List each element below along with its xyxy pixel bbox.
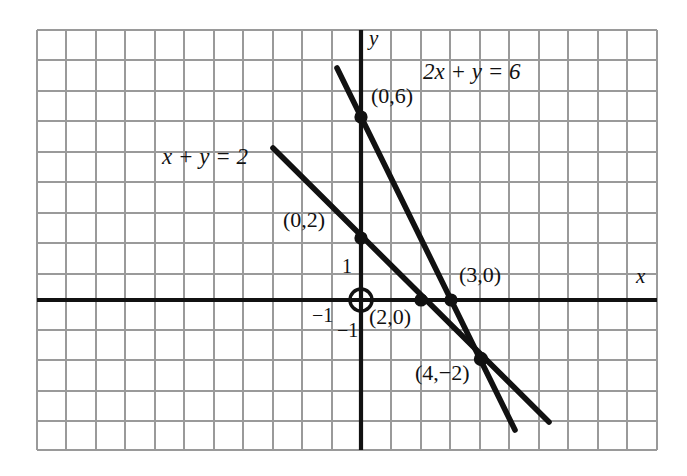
point-label-0-6: (0,6) [371,85,413,107]
x-axis-label: x [636,266,645,287]
line-1-equation-text: 2x + y = 6 [423,59,520,84]
coordinate-plane [0,0,687,476]
y-tick-label-neg1: −1 [337,320,358,340]
y-tick-label-1: 1 [342,256,352,276]
point-marker-0-2 [354,231,367,244]
line-2-equation-text: x + y = 2 [162,144,248,169]
point-label-4-neg2: (4,−2) [415,362,470,384]
point-marker-0-6 [354,110,367,123]
point-label-3-0: (3,0) [459,264,501,286]
line-1-equation-label: 2x + y = 6 [423,60,520,83]
line-x-plus-y-equals-2 [273,148,549,422]
point-marker-3-0 [444,293,457,306]
point-label-0-2: (0,2) [283,209,325,231]
point-label-2-0: (2,0) [369,306,411,328]
y-axis-label: y [369,28,378,49]
point-marker-4-neg2 [474,352,488,366]
line-2-equation-label: x + y = 2 [162,145,248,168]
graph-figure: 2x + y = 6 x + y = 2 (0,6) (0,2) (3,0) (… [0,0,687,476]
x-tick-label-neg1: −1 [312,305,333,325]
point-marker-2-0 [414,293,427,306]
